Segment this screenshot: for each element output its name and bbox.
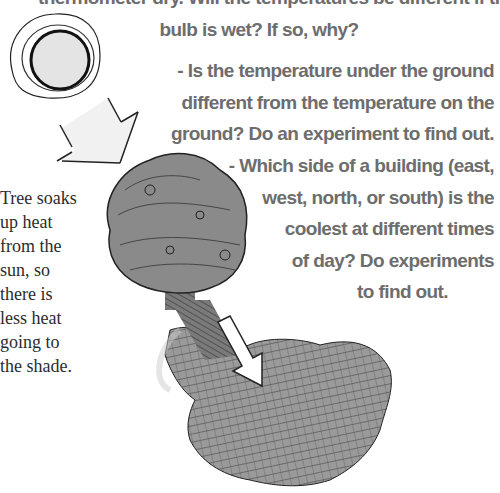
caption-line-6: less heat <box>0 306 77 330</box>
question-1: thermometer dry. Will the temperatures b… <box>38 0 500 45</box>
question-2: - Is the temperature under the ground di… <box>171 55 494 150</box>
tree-caption: Tree soaks up heat from the sun, so ther… <box>0 186 77 378</box>
question-3: - Which side of a building (east, west, … <box>229 150 494 308</box>
question-3-line-2: west, north, or south) is the <box>229 182 494 214</box>
question-3-line-3: coolest at different times <box>229 213 494 245</box>
question-3-line-4: of day? Do experiments <box>229 245 494 277</box>
question-2-line-3: ground? Do an experiment to find out. <box>171 118 494 150</box>
question-2-line-2: different from the temperature on the <box>171 87 494 119</box>
caption-line-1: Tree soaks <box>0 186 77 210</box>
caption-line-4: sun, so <box>0 258 77 282</box>
caption-line-3: from the <box>0 234 77 258</box>
question-3-line-1: - Which side of a building (east, <box>229 150 494 182</box>
question-1-line-1: thermometer dry. Will the temperatures b… <box>38 0 500 14</box>
caption-line-7: going to <box>0 330 77 354</box>
question-3-line-5: to find out. <box>229 276 448 308</box>
question-1-line-2: bulb is wet? If so, why? <box>18 14 500 46</box>
tree-icon <box>107 153 246 310</box>
sunlight-arrow-icon <box>57 98 138 163</box>
caption-line-5: there is <box>0 282 77 306</box>
caption-line-8: the shade. <box>0 354 77 378</box>
shade-icon <box>159 327 391 485</box>
question-2-line-1: - Is the temperature under the ground <box>171 55 494 87</box>
caption-line-2: up heat <box>0 210 77 234</box>
